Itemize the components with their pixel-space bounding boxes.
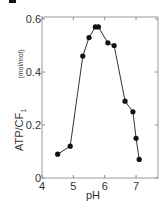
y-tick-label: 0.6	[26, 13, 41, 25]
y-tick-label: 0.2	[26, 119, 41, 131]
data-point	[133, 136, 138, 141]
data-series	[55, 24, 142, 162]
axis-ticks: 456700.20.40.6	[26, 13, 158, 192]
y-axis-label-subscript: 1	[20, 109, 27, 113]
data-point	[80, 54, 85, 59]
data-point	[96, 24, 101, 29]
x-axis-label: pH	[86, 189, 100, 201]
y-axis-unit: (mol/mol)	[17, 49, 25, 78]
data-point	[137, 157, 142, 162]
x-tick-label: 6	[102, 180, 108, 192]
data-point	[86, 35, 91, 40]
data-point	[55, 152, 60, 157]
data-point	[130, 109, 135, 114]
series-line	[58, 27, 140, 159]
y-tick-label: 0.4	[26, 66, 41, 78]
x-tick-label: 5	[70, 180, 76, 192]
data-point	[68, 144, 73, 149]
y-axis-label: ATP/CF1	[13, 109, 27, 151]
y-tick-label: 0	[35, 172, 41, 184]
x-tick-label: 7	[133, 180, 139, 192]
ph-chart: 456700.20.40.6 pH ATP/CF1 (mol/mol)	[0, 0, 166, 207]
y-axis-label-main: ATP/CF	[13, 113, 25, 152]
data-point	[122, 99, 127, 104]
data-point	[105, 40, 110, 45]
data-point	[112, 43, 117, 48]
